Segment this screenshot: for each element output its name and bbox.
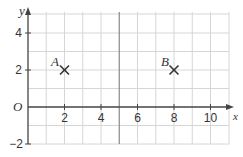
- point-b: B: [161, 54, 179, 75]
- tick-y-2: 2: [15, 63, 22, 77]
- tick-x-4: 4: [98, 111, 105, 125]
- point-b-label: B: [161, 54, 169, 69]
- tick-x-10: 10: [204, 111, 218, 125]
- tick-y-neg2: −2: [9, 137, 23, 151]
- x-axis-label: x: [232, 110, 238, 122]
- coordinate-grid: 2 4 6 8 10 4 2 −2 y x O A B: [0, 0, 243, 157]
- point-a: A: [50, 54, 69, 75]
- y-axis-arrow-icon: [25, 7, 31, 15]
- origin-label: O: [13, 99, 23, 114]
- tick-y-4: 4: [15, 26, 22, 40]
- tick-x-2: 2: [61, 111, 68, 125]
- y-axis-label: y: [17, 3, 25, 18]
- tick-x-6: 6: [134, 111, 141, 125]
- grid-lines: [28, 12, 229, 144]
- point-a-label: A: [50, 54, 59, 69]
- axes: [28, 12, 228, 144]
- tick-x-8: 8: [171, 111, 178, 125]
